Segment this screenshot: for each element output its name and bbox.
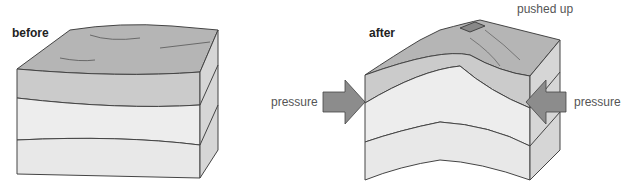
pressure-left-label: pressure — [271, 95, 318, 109]
pressure-right-label: pressure — [574, 95, 621, 109]
before-block — [17, 25, 218, 178]
before-label: before — [12, 26, 49, 40]
pushed-up-label: pushed up — [517, 2, 573, 16]
after-label: after — [369, 26, 395, 40]
pressure-arrow-left-icon — [323, 80, 365, 124]
